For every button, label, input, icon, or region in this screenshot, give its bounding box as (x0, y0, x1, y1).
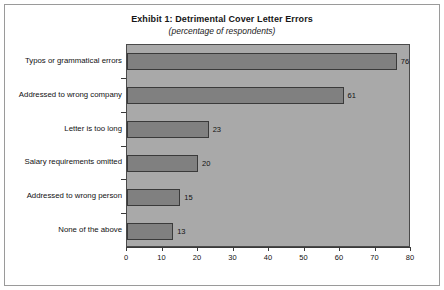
category-tick (121, 146, 126, 147)
bar-value-label: 20 (202, 155, 210, 172)
bar (127, 87, 344, 104)
x-axis-tick-label: 70 (370, 253, 378, 262)
category-tick (121, 213, 126, 214)
chart-figure: Exhibit 1: Detrimental Cover Letter Erro… (0, 0, 444, 290)
x-axis-tick-label: 60 (335, 253, 343, 262)
x-axis-tick (197, 247, 198, 251)
x-axis-tick (126, 247, 127, 251)
bar (127, 223, 173, 240)
category-label: Salary requirements omitted (0, 157, 122, 167)
x-axis-tick (410, 247, 411, 251)
x-axis-tick-label: 40 (264, 253, 272, 262)
bar-value-label: 23 (213, 121, 221, 138)
x-axis-tick-label: 20 (193, 253, 201, 262)
x-axis-tick-label: 0 (124, 253, 128, 262)
bar (127, 121, 209, 138)
chart-subtitle: (percentage of respondents) (0, 26, 444, 36)
category-tick (121, 112, 126, 113)
category-label: Letter is too long (0, 124, 122, 134)
bar-value-label: 61 (348, 87, 356, 104)
x-axis-tick-label: 50 (299, 253, 307, 262)
category-tick (121, 78, 126, 79)
category-label: None of the above (0, 225, 122, 235)
x-axis-tick (268, 247, 269, 251)
x-axis-tick (339, 247, 340, 251)
bar-value-label: 76 (401, 53, 409, 70)
bar-value-label: 15 (184, 189, 192, 206)
x-axis-tick (304, 247, 305, 251)
x-axis-tick (375, 247, 376, 251)
bar-value-label: 13 (177, 223, 185, 240)
bar (127, 189, 180, 206)
x-axis-tick (162, 247, 163, 251)
x-axis-tick-label: 80 (406, 253, 414, 262)
chart-title: Exhibit 1: Detrimental Cover Letter Erro… (0, 14, 444, 24)
x-axis-tick (233, 247, 234, 251)
bars-container: 766123201513 (127, 45, 409, 246)
bar (127, 155, 198, 172)
plot-area: 766123201513 (126, 44, 410, 247)
x-axis-tick-label: 10 (157, 253, 165, 262)
x-axis-tick-label: 30 (228, 253, 236, 262)
category-label: Addressed to wrong company (0, 90, 122, 100)
category-tick (121, 179, 126, 180)
category-label: Typos or grammatical errors (0, 56, 122, 66)
bar (127, 53, 397, 70)
category-label: Addressed to wrong person (0, 191, 122, 201)
